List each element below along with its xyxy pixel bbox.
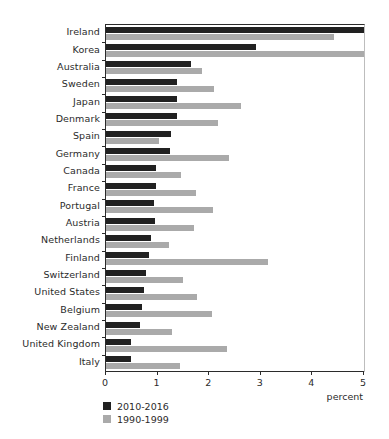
bar-recent	[106, 183, 156, 189]
category-label: Netherlands	[0, 235, 100, 245]
bar-older	[106, 346, 227, 352]
category-label: Italy	[0, 357, 100, 367]
bar-group	[106, 356, 364, 370]
bar-recent	[106, 113, 177, 119]
plot-area	[105, 24, 365, 372]
bar-group	[106, 287, 364, 301]
bar-older	[106, 103, 241, 109]
x-axis-tick	[157, 371, 158, 375]
category-label: Canada	[0, 166, 100, 176]
category-label: Belgium	[0, 305, 100, 315]
category-label: New Zealand	[0, 322, 100, 332]
x-axis-tick	[260, 371, 261, 375]
bar-older	[106, 242, 169, 248]
bar-older	[106, 329, 172, 335]
bar-older	[106, 51, 364, 57]
bar-recent	[106, 61, 191, 67]
category-label: Germany	[0, 149, 100, 159]
x-axis-line	[105, 371, 364, 372]
bar-older	[106, 120, 218, 126]
bar-group	[106, 79, 364, 93]
bar-older	[106, 34, 334, 40]
bar-recent	[106, 252, 149, 258]
bar-recent	[106, 44, 256, 50]
bar-recent	[106, 27, 364, 33]
category-label: France	[0, 183, 100, 193]
horizontal-bar-chart: IrelandKoreaAustraliaSwedenJapanDenmarkS…	[0, 0, 389, 439]
bar-older	[106, 172, 181, 178]
bar-recent	[106, 356, 131, 362]
legend-label: 1990-1999	[117, 414, 169, 425]
bar-group	[106, 165, 364, 179]
bar-older	[106, 225, 194, 231]
bar-group	[106, 61, 364, 75]
category-label: Korea	[0, 45, 100, 55]
x-axis-tick-label: 5	[351, 377, 375, 388]
category-label: Portugal	[0, 201, 100, 211]
bar-group	[106, 252, 364, 266]
category-label: Switzerland	[0, 270, 100, 280]
bar-group	[106, 27, 364, 41]
category-label: Ireland	[0, 27, 100, 37]
chart-legend: 2010-20161990-1999	[103, 400, 169, 426]
bar-recent	[106, 287, 144, 293]
bar-group	[106, 200, 364, 214]
category-label: Japan	[0, 97, 100, 107]
bar-group	[106, 113, 364, 127]
bar-older	[106, 207, 213, 213]
category-label: United Kingdom	[0, 339, 100, 349]
legend-swatch	[103, 402, 111, 410]
category-label: Australia	[0, 62, 100, 72]
x-axis-tick-label: 3	[248, 377, 272, 388]
bar-older	[106, 294, 197, 300]
category-label: Finland	[0, 253, 100, 263]
bar-older	[106, 68, 202, 74]
bar-older	[106, 311, 212, 317]
bar-group	[106, 322, 364, 336]
bar-older	[106, 190, 196, 196]
bar-group	[106, 339, 364, 353]
bar-older	[106, 155, 229, 161]
bar-group	[106, 96, 364, 110]
x-axis-tick-label: 2	[196, 377, 220, 388]
legend-item: 2010-2016	[103, 400, 169, 412]
bar-recent	[106, 322, 140, 328]
category-axis-labels: IrelandKoreaAustraliaSwedenJapanDenmarkS…	[0, 24, 100, 371]
bar-recent	[106, 165, 156, 171]
bar-recent	[106, 235, 151, 241]
category-label: Denmark	[0, 114, 100, 124]
bar-group	[106, 148, 364, 162]
x-axis-title: percent	[263, 391, 363, 402]
category-label: United States	[0, 287, 100, 297]
bar-group	[106, 270, 364, 284]
bar-group	[106, 304, 364, 318]
x-axis-tick	[363, 371, 364, 375]
bar-recent	[106, 304, 142, 310]
legend-item: 1990-1999	[103, 413, 169, 425]
legend-label: 2010-2016	[117, 401, 169, 412]
x-axis-tick	[208, 371, 209, 375]
bar-recent	[106, 96, 177, 102]
bar-recent	[106, 200, 154, 206]
bar-older	[106, 363, 180, 369]
category-label: Austria	[0, 218, 100, 228]
x-axis-tick	[311, 371, 312, 375]
bar-older	[106, 138, 159, 144]
bar-recent	[106, 218, 155, 224]
x-axis-tick-label: 1	[145, 377, 169, 388]
category-label: Spain	[0, 131, 100, 141]
bar-group	[106, 218, 364, 232]
x-axis-tick-label: 0	[93, 377, 117, 388]
bar-recent	[106, 148, 170, 154]
bar-recent	[106, 339, 131, 345]
bar-group	[106, 44, 364, 58]
bar-older	[106, 86, 214, 92]
bar-group	[106, 183, 364, 197]
category-label: Sweden	[0, 79, 100, 89]
bar-recent	[106, 131, 171, 137]
legend-swatch	[103, 415, 111, 423]
x-axis-tick	[105, 371, 106, 375]
bar-recent	[106, 270, 146, 276]
bar-older	[106, 259, 268, 265]
bar-group	[106, 131, 364, 145]
